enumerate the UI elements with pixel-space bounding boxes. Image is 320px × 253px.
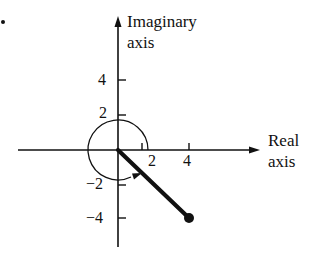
x-tick-label-4: 4 bbox=[183, 153, 191, 169]
y-tick-label-4: 4 bbox=[98, 72, 106, 88]
imaginary-axis-label-line1: Imaginary bbox=[127, 12, 197, 31]
real-axis-label-line1: Real bbox=[268, 131, 299, 150]
y-tick-label-neg2: −2 bbox=[86, 176, 103, 192]
x-tick-label-2: 2 bbox=[148, 153, 156, 169]
imaginary-axis-label-line2: axis bbox=[127, 33, 154, 52]
bullet-marker bbox=[1, 20, 5, 24]
vector-endpoint-dot bbox=[184, 213, 194, 223]
complex-plane-diagram bbox=[0, 0, 320, 253]
y-tick-label-neg4: −4 bbox=[86, 210, 103, 226]
imaginary-axis-arrowhead-icon bbox=[115, 16, 122, 27]
y-tick-label-2: 2 bbox=[99, 105, 107, 121]
real-axis-label-line2: axis bbox=[268, 152, 295, 171]
real-axis-arrowhead-icon bbox=[249, 147, 260, 154]
